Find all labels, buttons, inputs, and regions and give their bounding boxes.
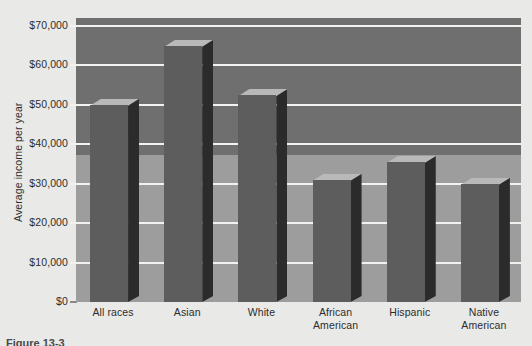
bar-side-face xyxy=(499,178,510,302)
bar-front-face xyxy=(387,162,425,302)
x-axis-label-line: American xyxy=(291,319,381,332)
y-axis-tick-label: $50,000 xyxy=(0,98,68,110)
bar-side-face xyxy=(202,40,213,302)
bar-front-face xyxy=(461,184,499,302)
bar[interactable] xyxy=(387,162,425,302)
y-axis-tick-label: $60,000 xyxy=(0,58,68,70)
bar[interactable] xyxy=(90,105,128,302)
plot-background-lower xyxy=(76,155,521,302)
bar-front-face xyxy=(90,105,128,302)
gridline xyxy=(76,25,521,27)
x-axis-label-line: American xyxy=(439,319,529,332)
y-axis-tick-label: $70,000 xyxy=(0,19,68,31)
bar-side-face xyxy=(128,99,139,302)
y-axis-tick-label: $20,000 xyxy=(0,216,68,228)
bar-front-face xyxy=(313,180,351,302)
gridline xyxy=(76,143,521,145)
gridline xyxy=(76,262,521,264)
y-axis-tick-label: $0 xyxy=(0,295,68,307)
y-axis-tick-label: $40,000 xyxy=(0,137,68,149)
plot-area xyxy=(76,18,521,302)
y-axis-tick-label: $10,000 xyxy=(0,256,68,268)
plot-background-upper xyxy=(76,18,521,155)
bar[interactable] xyxy=(238,95,276,302)
figure-container: Average income per year $0$10,000$20,000… xyxy=(0,0,532,346)
bar-front-face xyxy=(164,46,202,302)
figure-caption: Figure 13-3 xyxy=(6,337,65,346)
y-axis-title: Average income per year xyxy=(12,103,24,222)
gridline xyxy=(76,104,521,106)
x-axis-label-line: Native xyxy=(439,306,529,319)
bar-side-face xyxy=(425,156,436,302)
bar-side-face xyxy=(276,89,287,302)
bar[interactable] xyxy=(461,184,499,302)
bar[interactable] xyxy=(164,46,202,302)
x-axis-label: NativeAmerican xyxy=(439,306,529,331)
gridline xyxy=(76,183,521,185)
gridline xyxy=(76,222,521,224)
gridline xyxy=(76,64,521,66)
bar-front-face xyxy=(238,95,276,302)
y-axis-tick-label: $30,000 xyxy=(0,177,68,189)
bar[interactable] xyxy=(313,180,351,302)
bar-side-face xyxy=(351,174,362,302)
